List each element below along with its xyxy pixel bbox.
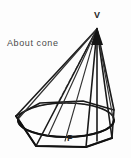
- geometry-figure-cone: About cone V P: [0, 0, 131, 158]
- label-base-p: P: [67, 134, 73, 143]
- cone-base-ellipse-front: [18, 120, 114, 137]
- label-apex-v: V: [94, 11, 100, 20]
- pyramid-edge-4: [97, 29, 112, 138]
- cone-pyramid-drawing: [0, 0, 131, 158]
- caption-about-cone: About cone: [7, 39, 59, 48]
